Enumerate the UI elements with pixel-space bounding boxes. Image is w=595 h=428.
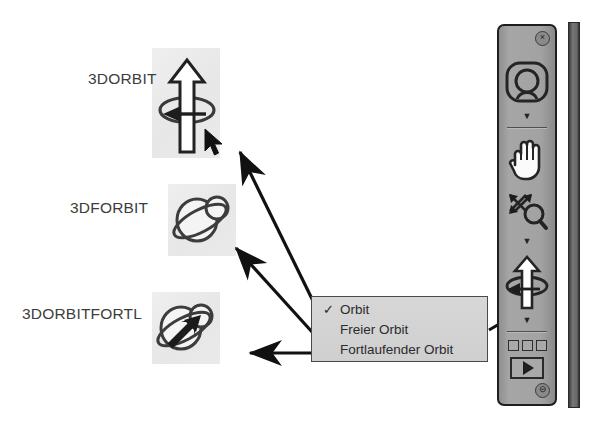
menu-item-orbit[interactable]: ✓ Orbit xyxy=(312,300,487,320)
mouse-cursor xyxy=(204,128,226,158)
minimize-icon[interactable]: ⊖ xyxy=(535,383,550,398)
chevron-down-icon-nav-wheel[interactable]: ▼ xyxy=(499,112,555,120)
hand-pan-icon xyxy=(506,138,548,182)
steering-wheel-icon xyxy=(504,60,550,106)
three-squares-icon-1 xyxy=(508,340,519,351)
toolbar-separator-2 xyxy=(507,331,547,333)
toolbar-separator-1 xyxy=(507,127,547,129)
menu-item-freier-orbit[interactable]: Freier Orbit xyxy=(312,320,487,340)
screenshot-canvas: 3DORBIT 3DFORBIT 3DORBITFORTL xyxy=(0,0,595,428)
menu-item-label: Fortlaufender Orbit xyxy=(340,342,453,357)
toolbar-button-show-motion-thumbs[interactable] xyxy=(499,340,555,351)
close-icon[interactable]: × xyxy=(535,31,550,46)
command-label-3dorbit: 3DORBIT xyxy=(88,71,157,87)
chevron-down-icon-zoom[interactable]: ▼ xyxy=(499,237,555,245)
arrow-to-3dorbit xyxy=(240,152,314,303)
toolbar-button-pan[interactable] xyxy=(499,136,555,184)
menu-item-fortlaufender-orbit[interactable]: Fortlaufender Orbit xyxy=(312,340,487,360)
continuous-orbit-icon xyxy=(154,294,218,362)
constrained-orbit-icon xyxy=(504,253,550,311)
orbit-context-menu[interactable]: ✓ Orbit Freier Orbit Fortlaufender Orbit xyxy=(311,296,488,362)
check-icon: ✓ xyxy=(321,300,335,320)
free-orbit-icon xyxy=(170,186,234,254)
arrow-to-3dforbit xyxy=(236,248,313,333)
zoom-extents-icon xyxy=(505,190,549,232)
toolbar-button-nav-wheel[interactable] xyxy=(499,56,555,110)
command-label-3dorbitfortl: 3DORBITFORTL xyxy=(22,306,142,322)
toolbar-button-show-motion-play[interactable] xyxy=(499,357,555,379)
play-icon xyxy=(510,357,544,379)
toolbar-button-zoom[interactable] xyxy=(499,188,555,234)
menu-item-label: Orbit xyxy=(340,302,369,317)
vertical-scrollbar[interactable] xyxy=(568,22,580,408)
play-triangle xyxy=(523,361,534,375)
menu-item-label: Freier Orbit xyxy=(340,322,408,337)
three-squares-icon-3 xyxy=(536,340,547,351)
3d-navigation-toolbar[interactable]: × ▼ xyxy=(497,24,557,406)
chevron-down-icon-orbit[interactable]: ▼ xyxy=(499,316,555,324)
toolbar-button-orbit[interactable] xyxy=(499,251,555,313)
three-squares-icon-2 xyxy=(522,340,533,351)
check-icon-placeholder xyxy=(321,340,335,360)
check-icon-placeholder xyxy=(321,320,335,340)
command-label-3dforbit: 3DFORBIT xyxy=(70,200,148,216)
